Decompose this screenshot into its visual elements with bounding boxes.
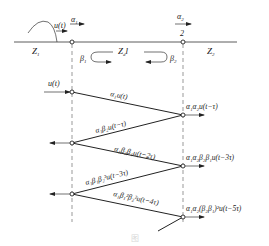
beta2-label: β2 bbox=[169, 54, 177, 64]
lattice-node bbox=[70, 90, 74, 94]
wave-segment-6 bbox=[158, 217, 183, 231]
segment-label-2: α₁β₂u(t−τ) bbox=[94, 118, 127, 134]
node-2 bbox=[181, 40, 185, 44]
transmitted-label-2: α₁α₂β₂β₁u(t−3τ) bbox=[186, 153, 235, 162]
lattice-diagram: u(t) α1 α2 2 Z1 Zdl Z2 β1 β2 u(t) α₁u(t)… bbox=[0, 0, 269, 246]
incident-wave-curve bbox=[28, 21, 57, 42]
z1-label: Z1 bbox=[32, 46, 40, 57]
input-label: u(t) bbox=[48, 79, 60, 88]
node-1 bbox=[70, 40, 74, 44]
node2-label: 2 bbox=[180, 29, 184, 38]
zd-label: Zdl bbox=[118, 46, 129, 57]
segment-label-1: α₁u(t) bbox=[110, 89, 129, 101]
transmitted-label-3: α₁α₂(β₂β₁)²u(t−5τ) bbox=[186, 204, 242, 213]
incident-wave-label: u(t) bbox=[54, 21, 66, 30]
segment-label-4: α₁β₁β₂²u(t−3τ) bbox=[84, 167, 129, 186]
figure-caption: 图 bbox=[0, 232, 269, 243]
beta1-reflection-loop bbox=[91, 52, 113, 62]
segment-label-3: α₁β₂β₁u(t−2τ) bbox=[114, 144, 157, 161]
lattice-node bbox=[181, 113, 185, 117]
lattice-node bbox=[181, 164, 185, 168]
alpha1-label: α1 bbox=[71, 15, 78, 25]
lattice-node bbox=[181, 215, 185, 219]
segment-label-5: α₁β₁²β₂²u(t−4τ) bbox=[113, 189, 160, 207]
z2-label: Z2 bbox=[207, 46, 215, 57]
beta2-reflection-loop bbox=[144, 52, 167, 62]
lattice-node bbox=[70, 141, 74, 145]
transmitted-label-1: α₁α₂u(t−τ) bbox=[186, 102, 218, 111]
alpha2-label: α2 bbox=[177, 12, 184, 22]
lattice-node bbox=[70, 192, 74, 196]
beta1-label: β1 bbox=[79, 54, 86, 64]
wave-segment-2 bbox=[72, 115, 183, 143]
